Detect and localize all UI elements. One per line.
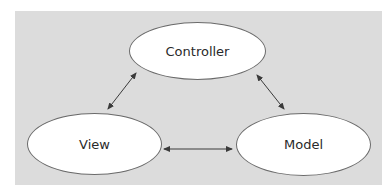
node-view: View xyxy=(27,113,162,175)
node-label-controller: Controller xyxy=(166,44,230,59)
node-model: Model xyxy=(236,113,371,176)
edge-view-controller xyxy=(108,73,136,109)
node-label-view: View xyxy=(79,137,110,152)
node-label-model: Model xyxy=(284,137,323,152)
edge-controller-model xyxy=(257,75,284,109)
node-controller: Controller xyxy=(129,22,266,80)
mvc-diagram: Controller View Model xyxy=(0,0,392,194)
